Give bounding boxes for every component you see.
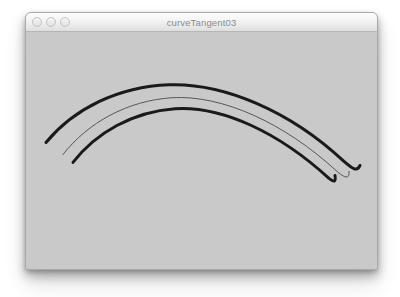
- window-title: curveTangent03: [26, 17, 377, 28]
- window-title-bar[interactable]: curveTangent03: [26, 13, 377, 32]
- curve-group: [46, 85, 360, 181]
- application-window[interactable]: curveTangent03: [25, 12, 378, 270]
- curve-tangent-graphic: [26, 33, 377, 269]
- outer-tangent-curve: [46, 85, 360, 169]
- drawing-canvas[interactable]: [26, 33, 377, 269]
- inner-tangent-curve: [73, 108, 335, 181]
